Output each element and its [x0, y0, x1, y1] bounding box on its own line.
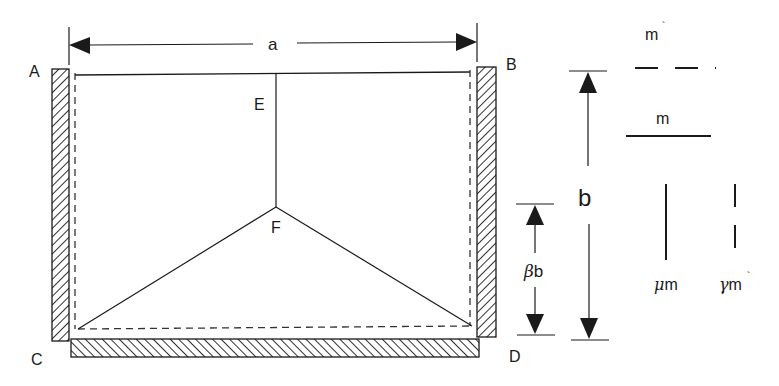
legend-mu-m-label: μm — [654, 275, 678, 294]
free-edge-ab — [75, 72, 470, 75]
corner-label-b: B — [506, 56, 517, 73]
bottom-wall-support — [71, 339, 479, 357]
point-label-f: F — [271, 219, 281, 236]
dim-b-label: b — [578, 184, 591, 211]
legend-gamma-m-prime-mark: ` — [747, 271, 750, 282]
beta-symbol: β — [523, 261, 534, 281]
negative-moment-line-bottom — [78, 326, 470, 329]
right-wall-support — [477, 67, 496, 337]
legend: m ` m μm γm ` — [626, 21, 750, 294]
point-label-e: E — [254, 96, 265, 113]
dim-a-line-left — [88, 44, 253, 45]
dim-beta-arrow-down-icon — [526, 314, 544, 334]
legend-gamma-m-prime-label: γm — [719, 275, 742, 294]
gamma-symbol: γ — [719, 275, 729, 294]
mu-symbol: μ — [654, 275, 664, 294]
corner-label-a: A — [29, 63, 40, 80]
slab-diagram: A B C D E F a b βb m ` m μm — [0, 0, 779, 386]
legend-m-prime-label: m — [645, 26, 658, 43]
corner-label-d: D — [509, 348, 521, 365]
dim-a-line-right — [297, 42, 458, 43]
yield-line-fc — [78, 207, 276, 329]
dim-b-arrow-down-icon — [580, 318, 598, 339]
corner-label-c: C — [31, 351, 43, 368]
dim-beta-arrow-up-icon — [526, 205, 544, 225]
left-wall-support — [52, 69, 69, 341]
beta-b-text: b — [534, 262, 543, 281]
dim-beta-label: βb — [523, 261, 543, 281]
legend-m-label: m — [656, 110, 669, 127]
dim-a-arrow-left-icon — [69, 37, 90, 54]
yield-line-fd — [276, 207, 472, 326]
dim-a-label: a — [268, 35, 278, 54]
dim-a-arrow-right-icon — [456, 33, 477, 51]
gamma-m-text: m — [729, 276, 742, 293]
dim-b-arrow-up-icon — [579, 72, 597, 93]
mu-m-text: m — [664, 276, 677, 293]
legend-m-prime-mark: ` — [662, 21, 665, 32]
